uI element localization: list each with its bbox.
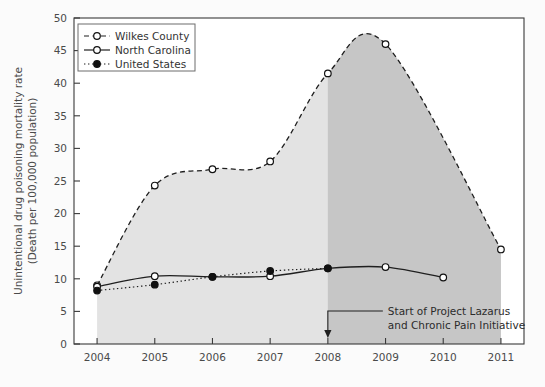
chart-legend: Wilkes CountyNorth CarolinaUnited States bbox=[78, 24, 195, 71]
data-point-marker bbox=[440, 274, 447, 281]
y-tick-label: 20 bbox=[54, 207, 67, 219]
legend-label: United States bbox=[115, 58, 186, 70]
y-tick-label: 25 bbox=[54, 175, 67, 187]
chart-figure: 05101520253035404550 2004200520062007200… bbox=[0, 0, 545, 387]
legend-label: North Carolina bbox=[115, 44, 191, 56]
legend-marker bbox=[94, 33, 101, 40]
legend-items: Wilkes CountyNorth CarolinaUnited States bbox=[84, 30, 191, 70]
y-tick-label: 50 bbox=[54, 12, 67, 24]
y-tick-label: 40 bbox=[54, 77, 67, 89]
data-point-marker bbox=[498, 246, 505, 253]
x-tick-label: 2005 bbox=[141, 351, 168, 363]
x-tick-label: 2008 bbox=[314, 351, 341, 363]
y-tick-label: 5 bbox=[60, 305, 67, 317]
annotation-text-line1: Start of Project Lazarus bbox=[388, 305, 510, 317]
y-tick-label: 35 bbox=[54, 110, 67, 122]
data-point-marker bbox=[382, 41, 389, 48]
data-point-marker bbox=[267, 158, 274, 165]
legend-marker bbox=[94, 61, 101, 68]
y-axis-title-line2: (Death per 100,000 population) bbox=[26, 98, 38, 265]
data-point-marker bbox=[267, 268, 274, 275]
y-tick-label: 30 bbox=[54, 142, 67, 154]
x-tick-label: 2006 bbox=[199, 351, 226, 363]
y-tick-label: 45 bbox=[54, 44, 67, 56]
data-point-marker bbox=[151, 281, 158, 288]
data-point-marker bbox=[325, 265, 332, 272]
data-point-marker bbox=[151, 182, 158, 189]
mortality-rate-line-chart: 05101520253035404550 2004200520062007200… bbox=[0, 0, 545, 387]
x-tick-label: 2011 bbox=[488, 351, 515, 363]
legend-label: Wilkes County bbox=[115, 30, 189, 42]
x-tick-label: 2010 bbox=[430, 351, 457, 363]
x-tick-label: 2004 bbox=[84, 351, 111, 363]
data-point-marker bbox=[325, 70, 332, 77]
data-point-marker bbox=[94, 287, 101, 294]
legend-marker bbox=[94, 47, 101, 54]
y-tick-label: 0 bbox=[60, 338, 67, 350]
data-point-marker bbox=[209, 274, 216, 281]
y-tick-label: 10 bbox=[54, 273, 67, 285]
data-point-marker bbox=[209, 166, 216, 173]
y-axis-title-line1: Unintentional drug poisoning mortality r… bbox=[12, 67, 24, 295]
x-tick-label: 2009 bbox=[372, 351, 399, 363]
data-point-marker bbox=[382, 264, 389, 271]
y-tick-label: 15 bbox=[54, 240, 67, 252]
x-tick-label: 2007 bbox=[257, 351, 284, 363]
annotation-text-line2: and Chronic Pain Initiative bbox=[388, 319, 525, 331]
data-point-marker bbox=[151, 273, 158, 280]
